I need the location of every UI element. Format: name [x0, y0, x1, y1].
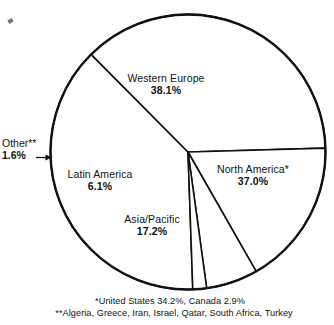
slice-name-western-europe: Western Europe [104, 72, 228, 84]
footnotes-block: *United States 34.2%, Canada 2.9% **Alge… [0, 296, 334, 320]
footnote-united-states-canada: *United States 34.2%, Canada 2.9% [0, 296, 334, 308]
slice-label-north-america: North America* 37.0% [198, 163, 308, 188]
slice-value-other: 1.6% [2, 149, 60, 161]
slice-value-western-europe: 38.1% [104, 84, 228, 96]
slice-name-latin-america: Latin America [47, 168, 153, 180]
slice-value-north-america: 37.0% [198, 175, 308, 187]
slice-label-other: Other** 1.6% [2, 137, 60, 162]
slice-label-western-europe: Western Europe 38.1% [104, 72, 228, 97]
slice-name-other: Other** [2, 137, 60, 149]
slice-value-latin-america: 6.1% [47, 180, 153, 192]
slice-label-asia-pacific: Asia/Pacific 17.2% [98, 213, 206, 238]
pie-slice-group [50, 14, 325, 289]
slice-value-asia-pacific: 17.2% [98, 225, 206, 237]
pie-chart: Western Europe 38.1% North America* 37.0… [0, 0, 334, 325]
slice-name-north-america: North America* [198, 163, 308, 175]
footnote-other-countries: **Algeria, Greece, Iran, Israel, Qatar, … [0, 308, 334, 320]
slice-label-latin-america: Latin America 6.1% [47, 168, 153, 193]
slice-name-asia-pacific: Asia/Pacific [98, 213, 206, 225]
